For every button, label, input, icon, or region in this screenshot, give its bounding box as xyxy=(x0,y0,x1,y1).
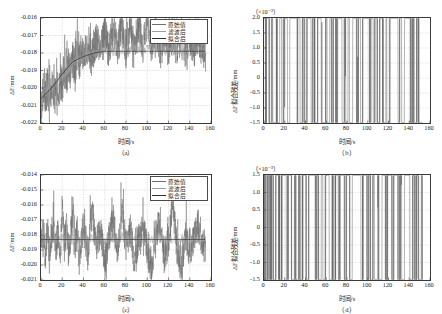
panel-c-ytick: -0.020 xyxy=(6,260,37,267)
panel-d-ytick: -0.5 xyxy=(229,240,260,247)
panel-c-ytick: -0.015 xyxy=(6,185,37,192)
panel-d-ytick: 1.5 xyxy=(229,170,260,177)
panel-b-ytick: 2.0 xyxy=(229,13,260,20)
panel-c-xlabel: 时间/s xyxy=(86,294,166,303)
panel-d: ΔF拟合残差/mm （×10⁻³） 时间/s （d） 0204060801001… xyxy=(221,157,442,314)
panel-d-ytick: -1.0 xyxy=(229,258,260,265)
panel-c-ytick: -0.016 xyxy=(6,200,37,207)
panel-b-xtick: 160 xyxy=(417,124,441,131)
panel-a-legend[interactable]: 原始值滤波后拟合后 xyxy=(150,19,208,44)
panel-a: ΔF/mm 时间/s （a） 020406080100120140160-0.0… xyxy=(0,0,221,157)
panel-c-ytick: -0.014 xyxy=(6,170,37,177)
panel-b-series-0 xyxy=(264,18,423,122)
panel-c-ytick: -0.021 xyxy=(6,275,37,282)
legend-item-2[interactable]: 拟合后 xyxy=(152,192,205,199)
panel-b-ytick: -1.0 xyxy=(229,103,260,110)
panel-c-ytick: -0.019 xyxy=(6,245,37,252)
panel-b-canvas xyxy=(264,18,430,123)
legend-line-icon xyxy=(152,31,166,32)
legend-line-icon xyxy=(152,38,166,39)
panel-d-ytick: 1.0 xyxy=(229,188,260,195)
panel-c-ytick: -0.017 xyxy=(6,215,37,222)
panel-d-ytick: 0.5 xyxy=(229,205,260,212)
panel-a-ytick: -0.021 xyxy=(6,101,37,108)
panel-c-ytick: -0.018 xyxy=(6,230,37,237)
panel-d-plot-area xyxy=(263,174,431,281)
panel-b-ytick: -0.5 xyxy=(229,88,260,95)
panel-b-ytick: -1.5 xyxy=(229,118,260,125)
legend-line-icon xyxy=(152,181,166,182)
panel-a-xlabel: 时间/s xyxy=(86,137,166,146)
legend-line-icon xyxy=(152,24,166,25)
panel-a-ytick: -0.020 xyxy=(6,83,37,90)
panel-d-ytick: 0 xyxy=(229,223,260,230)
panel-b-plot-area xyxy=(263,17,431,124)
panel-d-ytick: -1.5 xyxy=(229,275,260,282)
panel-b-xlabel: 时间/s xyxy=(307,137,387,146)
panel-c-caption: （c） xyxy=(86,304,166,314)
legend-line-icon xyxy=(152,195,166,196)
panel-a-ytick: -0.019 xyxy=(6,66,37,73)
panel-a-series-1 xyxy=(41,40,205,98)
panel-b-ytick: 1.0 xyxy=(229,43,260,50)
legend-line-icon xyxy=(152,188,166,189)
panel-d-xtick: 160 xyxy=(417,281,441,288)
panel-b-ytick: 1.5 xyxy=(229,28,260,35)
legend-item-label: 拟合后 xyxy=(168,34,186,43)
legend-item-label: 拟合后 xyxy=(168,191,186,200)
panel-c: ΔF/mm 时间/s （c） 020406080100120140160-0.0… xyxy=(0,157,221,314)
panel-d-xlabel: 时间/s xyxy=(307,294,387,303)
panel-a-ytick: -0.018 xyxy=(6,48,37,55)
panel-a-ytick: -0.017 xyxy=(6,31,37,38)
panel-b-ytick: 0 xyxy=(229,73,260,80)
legend-item-2[interactable]: 拟合后 xyxy=(152,35,205,42)
panel-a-ytick: -0.016 xyxy=(6,13,37,20)
panel-a-caption: （a） xyxy=(86,147,166,157)
panel-c-xtick: 160 xyxy=(198,281,222,288)
panel-a-xtick: 160 xyxy=(198,124,222,131)
panel-d-canvas xyxy=(264,175,430,280)
panel-d-caption: （d） xyxy=(307,304,387,314)
figure-root: ΔF/mm 时间/s （a） 020406080100120140160-0.0… xyxy=(0,0,442,314)
panel-c-legend[interactable]: 原始值滤波后拟合后 xyxy=(150,176,208,201)
panel-b-ytick: 0.5 xyxy=(229,58,260,65)
panel-a-ytick: -0.022 xyxy=(6,118,37,125)
panel-b-caption: （b） xyxy=(307,147,387,157)
panel-b: ΔF拟合残差/mm （×10⁻³） 时间/s （b） 0204060801001… xyxy=(221,0,442,157)
